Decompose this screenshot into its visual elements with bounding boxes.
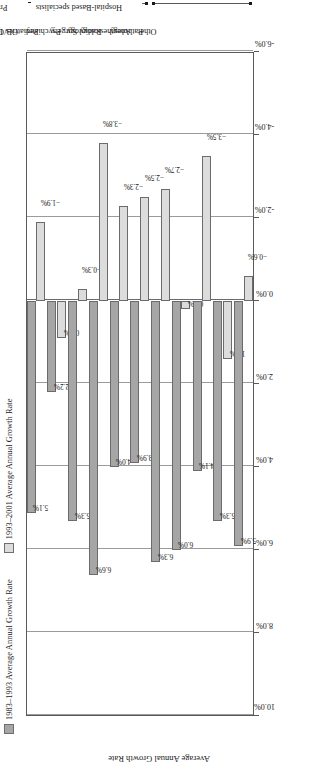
bar-value-label: −3.5% — [212, 126, 221, 146]
y-axis-tickmark — [254, 300, 259, 301]
bar-value-label: 6.3% — [161, 549, 170, 564]
bar-value-label: 5.9% — [244, 532, 253, 547]
y-axis-tick-label: -4.0% — [258, 112, 267, 132]
legend-item-series-2: 1993–2001 Average Annual Growth Rate — [4, 398, 14, 553]
bar-internal-med-series-2 — [78, 289, 87, 301]
bar-value-label: −1.9% — [46, 193, 55, 213]
group-bracket-hospital-based-specialists — [152, 3, 252, 4]
bar-psychiatry-series-2 — [140, 197, 149, 301]
bar-value-label: 6.6% — [99, 562, 108, 577]
bar-radiology-series-1 — [172, 301, 181, 550]
legend-swatch-series-1 — [4, 724, 14, 734]
bar-internal-med-series-1 — [68, 301, 77, 521]
bracket-end-cap — [249, 2, 252, 5]
bar-psychiatry-series-1 — [130, 301, 139, 463]
bar-ob-gyn-series-2 — [99, 143, 108, 301]
bar-surgery-series-1 — [151, 301, 160, 562]
gridline-60 — [27, 548, 253, 549]
bar-value-label: −0.3% — [87, 259, 96, 279]
chart-frame: 1983–1993 Average Annual Growth Rate 199… — [0, 0, 318, 768]
bar-ob-gyn-series-1 — [89, 301, 98, 575]
gridline-100 — [27, 714, 253, 715]
bar-all-doctors-series-2 — [36, 222, 45, 301]
y-axis-tick-label: 0.0% — [258, 281, 267, 298]
y-axis-tickmark — [254, 549, 259, 550]
gridline-80 — [27, 631, 253, 632]
y-axis-tick-label: 2.0% — [258, 364, 267, 381]
y-axis-tickmark — [254, 466, 259, 467]
y-axis-tick-label: 10.0% — [258, 692, 267, 713]
bar-value-label: 5.3% — [78, 508, 87, 523]
y-axis-tickmark — [254, 134, 259, 135]
y-axis-tickmark — [254, 383, 259, 384]
bar-value-label: −2.5% — [150, 168, 159, 188]
group-bracket-label: Hospital-Based specialists — [16, 3, 142, 12]
y-axis-tickmark — [254, 217, 259, 218]
y-axis-tickmark — [254, 715, 259, 716]
bar-value-label: 5.1% — [36, 499, 45, 514]
category-label-other: Other — [102, 27, 192, 36]
bar-value-label: −2.7% — [170, 159, 179, 179]
bar-value-label: 2.2% — [57, 379, 66, 394]
chart-legend: 1983–1993 Average Annual Growth Rate 199… — [4, 398, 14, 734]
bar-anesthesiology-series-2 — [202, 156, 211, 301]
legend-swatch-series-2 — [4, 543, 14, 553]
bar-value-label: 4.1% — [202, 458, 211, 473]
legend-label-series-1: 1983–1993 Average Annual Growth Rate — [5, 579, 14, 720]
legend-item-series-1: 1983–1993 Average Annual Growth Rate — [4, 579, 14, 734]
bar-value-label: 6.0% — [181, 537, 190, 552]
y-axis-tick-label: 8.0% — [258, 613, 267, 630]
y-axis-tick-label: 4.0% — [258, 447, 267, 464]
bar-value-label: −3.8% — [108, 114, 117, 134]
bar-other-series-1 — [234, 301, 243, 546]
bar-value-label: 4.0% — [119, 454, 128, 469]
bar-pediatrics-series-1 — [110, 301, 119, 467]
bar-other-series-2 — [244, 276, 253, 301]
bar-value-label: 3.9% — [140, 449, 149, 464]
bar-gp-fp-series-1 — [47, 301, 56, 392]
bar-surgery-series-2 — [161, 189, 170, 301]
bar-value-label: −2.3% — [129, 176, 138, 196]
y-axis-tick-label: -2.0% — [258, 195, 267, 215]
chart-rotated-canvas: 1983–1993 Average Annual Growth Rate 199… — [0, 0, 318, 768]
y-axis-tick-label: -6.0% — [258, 29, 267, 49]
bracket-end-cap — [152, 2, 155, 5]
bar-value-label: 5.3% — [223, 508, 232, 523]
bar-anesthesiology-series-1 — [193, 301, 202, 471]
bar-all-doctors-series-1 — [27, 301, 36, 513]
gridline-neg60 — [27, 50, 253, 51]
y-axis-tickmark — [254, 632, 259, 633]
bar-pediatrics-series-2 — [119, 206, 128, 301]
legend-label-series-2: 1993–2001 Average Annual Growth Rate — [5, 398, 14, 539]
y-axis-tickmark — [254, 51, 259, 52]
y-axis-tick-label: 6.0% — [258, 530, 267, 547]
bar-value-label: −0.6% — [253, 247, 262, 267]
y-axis-title: Average Annual Growth Rate — [0, 752, 318, 766]
bracket-end-cap — [145, 2, 148, 5]
bar-pathology-series-1 — [213, 301, 222, 521]
